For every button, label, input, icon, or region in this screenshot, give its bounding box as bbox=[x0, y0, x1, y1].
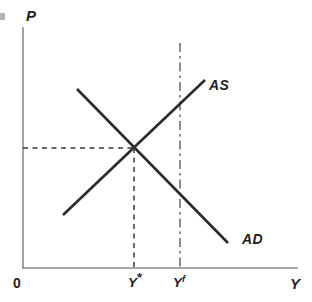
y-star-base: Y bbox=[128, 275, 137, 290]
aggregate-demand-curve bbox=[77, 89, 228, 243]
y-star-superscript: * bbox=[137, 270, 142, 285]
origin-label: 0 bbox=[13, 276, 21, 290]
aggregate-demand-label: AD bbox=[242, 232, 263, 246]
aggregate-supply-label: AS bbox=[209, 78, 229, 92]
ad-as-diagram-figure: P Y 0 AS AD Y* Yf bbox=[0, 0, 312, 302]
y-full-superscript: f bbox=[182, 273, 185, 284]
y-full-base: Y bbox=[173, 275, 182, 290]
y-axis-label: P bbox=[26, 8, 36, 23]
x-tick-label-full-employment-output: Yf bbox=[173, 276, 185, 290]
x-axis-label: Y bbox=[290, 276, 300, 291]
x-tick-label-equilibrium-output: Y* bbox=[128, 276, 142, 290]
diagram-canvas bbox=[0, 0, 312, 302]
